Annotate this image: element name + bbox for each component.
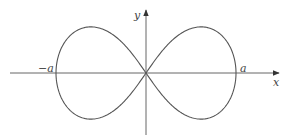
y-axis-label: y [133,9,141,22]
lemniscate-diagram: y x −a a [0,0,286,140]
x-axis-label: x [273,76,280,89]
right-intercept-label: a [240,62,247,75]
left-intercept-label: −a [38,62,54,75]
